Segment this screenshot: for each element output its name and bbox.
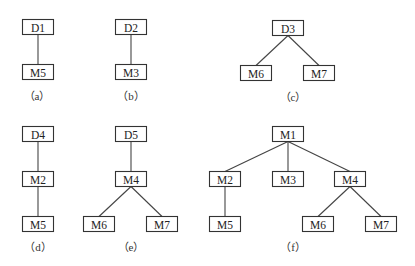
edge-m1-m2 [225, 142, 288, 172]
node-label: M6 [310, 219, 326, 231]
node-m6-c: M6 [241, 66, 272, 81]
node-label: M1 [280, 129, 296, 141]
node-label: M6 [91, 219, 107, 231]
node-m6-e: M6 [84, 217, 115, 232]
edge-d3-m6 [256, 36, 288, 66]
node-label: M7 [311, 68, 327, 80]
node-d4-d: D4 [23, 127, 54, 142]
node-label: M7 [154, 219, 170, 231]
edges-layer [38, 35, 381, 217]
edge-m4-m6 [318, 187, 350, 217]
caption-c: （c） [280, 91, 307, 103]
caption-a: （a） [24, 90, 51, 102]
nodes-layer: D1M5D2M3D3M6M7D4M2M5D5M4M6M7M1M2M3M4M5M6… [23, 20, 397, 232]
node-label: D4 [31, 129, 45, 141]
node-label: M2 [217, 174, 233, 186]
node-label: M7 [373, 219, 389, 231]
edge-m1-m4 [288, 142, 350, 172]
edge-m4-m6 [99, 187, 131, 217]
edge-m4-m7 [350, 187, 381, 217]
node-m6-f: M6 [303, 217, 334, 232]
tree-diagram-canvas: D1M5D2M3D3M6M7D4M2M5D5M4M6M7M1M2M3M4M5M6… [0, 0, 415, 266]
node-label: D5 [124, 129, 138, 141]
node-m5-d: M5 [23, 217, 54, 232]
node-m2-d: M2 [23, 172, 54, 187]
caption-d: （d） [24, 241, 52, 253]
node-m7-f: M7 [366, 217, 397, 232]
node-m7-c: M7 [304, 66, 335, 81]
caption-f: （f） [280, 241, 306, 253]
node-label: D3 [281, 23, 295, 35]
node-label: M4 [123, 174, 139, 186]
node-label: M5 [217, 219, 233, 231]
node-m2-f: M2 [210, 172, 241, 187]
edge-m4-m7 [131, 187, 162, 217]
edge-d3-m7 [288, 36, 319, 66]
node-label: D2 [124, 22, 138, 34]
node-label: M5 [30, 219, 46, 231]
node-label: D1 [31, 22, 45, 34]
node-label: M2 [30, 174, 46, 186]
node-m4-e: M4 [116, 172, 147, 187]
node-label: M6 [248, 68, 264, 80]
node-label: M4 [342, 174, 358, 186]
node-d1-a: D1 [23, 20, 54, 35]
node-m5-a: M5 [23, 65, 54, 80]
node-d3-c: D3 [273, 21, 304, 36]
node-label: M3 [280, 174, 296, 186]
node-m1-f: M1 [273, 127, 304, 142]
node-label: M3 [123, 67, 139, 79]
caption-b: （b） [117, 90, 145, 102]
node-m4-f: M4 [335, 172, 366, 187]
node-m3-f: M3 [273, 172, 304, 187]
node-d5-e: D5 [116, 127, 147, 142]
node-d2-b: D2 [116, 20, 147, 35]
caption-e: （e） [118, 241, 145, 253]
node-label: M5 [30, 67, 46, 79]
node-m7-e: M7 [147, 217, 178, 232]
node-m5-f: M5 [210, 217, 241, 232]
node-m3-b: M3 [116, 65, 147, 80]
